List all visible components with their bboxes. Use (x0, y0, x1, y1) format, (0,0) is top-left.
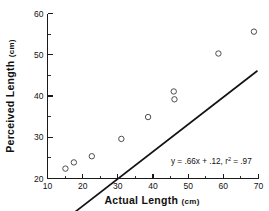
x-tick-label: 20 (78, 181, 88, 191)
x-tick-label: 60 (219, 181, 229, 191)
scatter-plot-figure: 2030405060 10203040506070 y = .66x + .12… (0, 0, 269, 211)
data-point-marker (71, 160, 76, 165)
y-axis-title: Perceived Length (cm) (4, 39, 16, 153)
data-point-marker (171, 89, 176, 94)
annotation-equation-suffix: = .97 (231, 157, 252, 166)
x-tick-label: 50 (183, 181, 193, 191)
data-point-marker (216, 51, 221, 56)
x-axis-title-text: Actual Length (104, 194, 178, 206)
x-axis-title: Actual Length (cm) (104, 194, 199, 206)
y-tick-label: 40 (34, 91, 44, 101)
x-axis-tick-labels: 10203040506070 (43, 181, 264, 191)
y-axis-ticks (48, 14, 53, 179)
data-point-marker (63, 166, 68, 171)
regression-equation-annotation: y = .66x + .12, r2 = .97 (171, 156, 252, 166)
data-point-marker (145, 114, 150, 119)
axes (48, 14, 259, 179)
data-point-marker (89, 154, 94, 159)
y-axis-title-text: Perceived Length (4, 60, 16, 152)
data-points (63, 29, 257, 171)
x-axis-title-unit: (cm) (182, 197, 200, 206)
y-tick-label: 30 (34, 132, 44, 142)
x-tick-label: 10 (43, 181, 53, 191)
data-point-marker (119, 136, 124, 141)
y-axis-title-unit: (cm) (7, 39, 16, 57)
x-tick-label: 40 (148, 181, 158, 191)
annotation-equation-prefix: y = .66x + .12, r (171, 157, 228, 166)
data-point-marker (251, 29, 256, 34)
y-axis-tick-labels: 2030405060 (34, 9, 44, 184)
data-point-marker (172, 97, 177, 102)
y-tick-label: 60 (34, 9, 44, 19)
x-tick-label: 30 (113, 181, 123, 191)
x-axis-ticks (48, 174, 259, 179)
x-tick-label: 70 (254, 181, 264, 191)
plot-canvas: 2030405060 10203040506070 y = .66x + .12… (0, 0, 269, 211)
y-tick-label: 50 (34, 50, 44, 60)
